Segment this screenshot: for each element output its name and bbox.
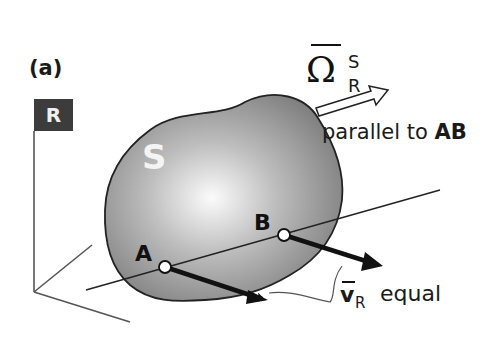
omega-overbar bbox=[311, 44, 341, 46]
panel-label: (a) bbox=[29, 58, 62, 79]
reference-frame-label: R bbox=[34, 99, 73, 131]
velocity-annotation: equal bbox=[380, 283, 441, 305]
velocity-subscript: R bbox=[355, 296, 365, 311]
rigid-body-diagram: (a) R S A B Ω S R parallel to AB v R equ… bbox=[0, 0, 488, 362]
point-a bbox=[159, 261, 171, 273]
point-a-label: A bbox=[135, 243, 152, 265]
rigid-body-label: S bbox=[142, 140, 167, 174]
angular-velocity-superscript: S bbox=[348, 53, 359, 71]
rigid-body-shape bbox=[105, 95, 343, 301]
parallel-annotation: parallel to AB bbox=[322, 122, 467, 143]
point-b bbox=[278, 229, 290, 241]
point-b-label: B bbox=[254, 212, 271, 234]
velocity-symbol: v bbox=[340, 284, 354, 306]
diagram-graphics bbox=[0, 0, 488, 362]
angular-velocity-subscript: R bbox=[348, 77, 361, 95]
angular-velocity-symbol: Ω bbox=[306, 52, 336, 88]
